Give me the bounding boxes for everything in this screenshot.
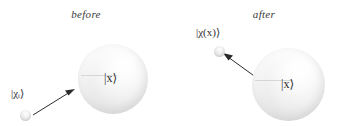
after-probe-sphere <box>214 46 225 57</box>
before-probe-sphere <box>20 110 31 121</box>
after-probe-label: |χ(x)⟩ <box>196 27 220 38</box>
panel-after: after |x⟩ |χ(x)⟩ <box>172 0 344 126</box>
panel-before: before |x⟩ |χᵢ⟩ <box>0 0 172 126</box>
scattering-before-after-figure: before |x⟩ |χᵢ⟩ after |x⟩ |χ(x)⟩ <box>0 0 344 126</box>
before-target-label: |x⟩ <box>104 72 117 84</box>
after-target-label: |x⟩ <box>281 78 294 90</box>
before-arrow-line <box>33 92 70 115</box>
before-probe-label: |χᵢ⟩ <box>11 88 24 99</box>
